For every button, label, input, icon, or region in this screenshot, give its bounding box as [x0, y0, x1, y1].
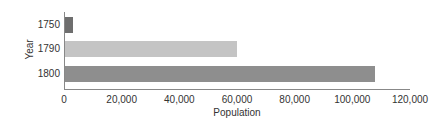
category-label-1790: 1790: [24, 43, 60, 54]
bar-1790: [65, 41, 237, 57]
x-tick-label: 120,000: [392, 94, 428, 105]
x-tick-label: 100,000: [334, 94, 370, 105]
category-label-1800: 1800: [24, 68, 60, 79]
category-label-1750: 1750: [24, 19, 60, 30]
x-axis-title: Population: [213, 107, 260, 118]
x-tick-label: 40,000: [164, 94, 195, 105]
x-axis-line: [64, 89, 410, 90]
population-bar-chart: Year 1750 1790 1800 0 20,000 40,000 60,0…: [0, 0, 448, 126]
bar-1800: [65, 66, 375, 82]
x-tick-label: 20,000: [106, 94, 137, 105]
bar-1750: [65, 17, 73, 33]
x-tick-label: 80,000: [279, 94, 310, 105]
x-tick-label: 0: [61, 94, 67, 105]
x-tick-label: 60,000: [222, 94, 253, 105]
